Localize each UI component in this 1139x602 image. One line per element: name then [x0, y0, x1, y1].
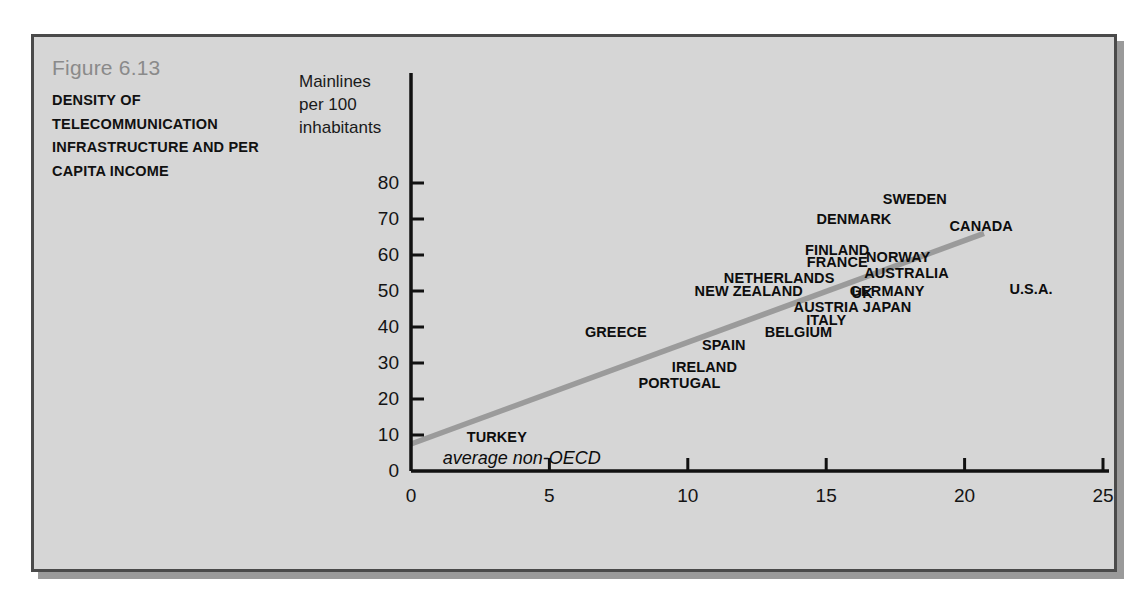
data-point-label: NORWAY	[866, 249, 930, 265]
y-axis-tick-label: 10	[378, 424, 399, 446]
data-point-label: CANADA	[949, 218, 1012, 234]
data-point-label: SPAIN	[702, 337, 746, 353]
data-point-label: JAPAN	[863, 299, 912, 315]
chart-annotation: average non-OECD	[443, 448, 601, 469]
y-axis-tick-label: 30	[378, 352, 399, 374]
x-axis-tick-label: 25	[1092, 485, 1113, 507]
y-axis-tick-label: 70	[378, 208, 399, 230]
data-point-label: DENMARK	[816, 211, 891, 227]
y-axis-tick-label: 40	[378, 316, 399, 338]
data-point-label: GERMANY	[850, 283, 925, 299]
data-point-label: U.S.A.	[1009, 281, 1052, 297]
x-axis-tick-label: 15	[816, 485, 837, 507]
plot-area: Mainlines per 100 inhabitants Real GDP p…	[34, 37, 1120, 575]
data-point-label: IRELAND	[672, 359, 737, 375]
y-axis-tick-label: 60	[378, 244, 399, 266]
data-point-label: GREECE	[585, 324, 647, 340]
data-point-label: AUSTRIA	[794, 299, 859, 315]
y-axis-tick-label: 50	[378, 280, 399, 302]
data-point-label: TURKEY	[467, 429, 527, 445]
figure-panel: Figure 6.13 DENSITY OF TELECOMMUNICATION…	[31, 34, 1117, 572]
data-point-label: FINLAND	[805, 242, 869, 258]
data-point-label: SWEDEN	[883, 191, 947, 207]
y-axis-tick-label: 80	[378, 172, 399, 194]
y-axis-tick-label: 0	[388, 460, 399, 482]
figure-root: Figure 6.13 DENSITY OF TELECOMMUNICATION…	[0, 0, 1139, 602]
x-axis-tick-label: 10	[677, 485, 698, 507]
x-axis-tick-label: 20	[954, 485, 975, 507]
data-point-label: NETHERLANDS	[724, 270, 835, 286]
data-point-label: AUSTRALIA	[864, 265, 949, 281]
x-axis-tick-label: 0	[406, 485, 417, 507]
y-axis-tick-label: 20	[378, 388, 399, 410]
data-point-label: PORTUGAL	[638, 375, 720, 391]
x-axis-tick-label: 5	[544, 485, 555, 507]
y-axis-title: Mainlines per 100 inhabitants	[299, 70, 381, 139]
